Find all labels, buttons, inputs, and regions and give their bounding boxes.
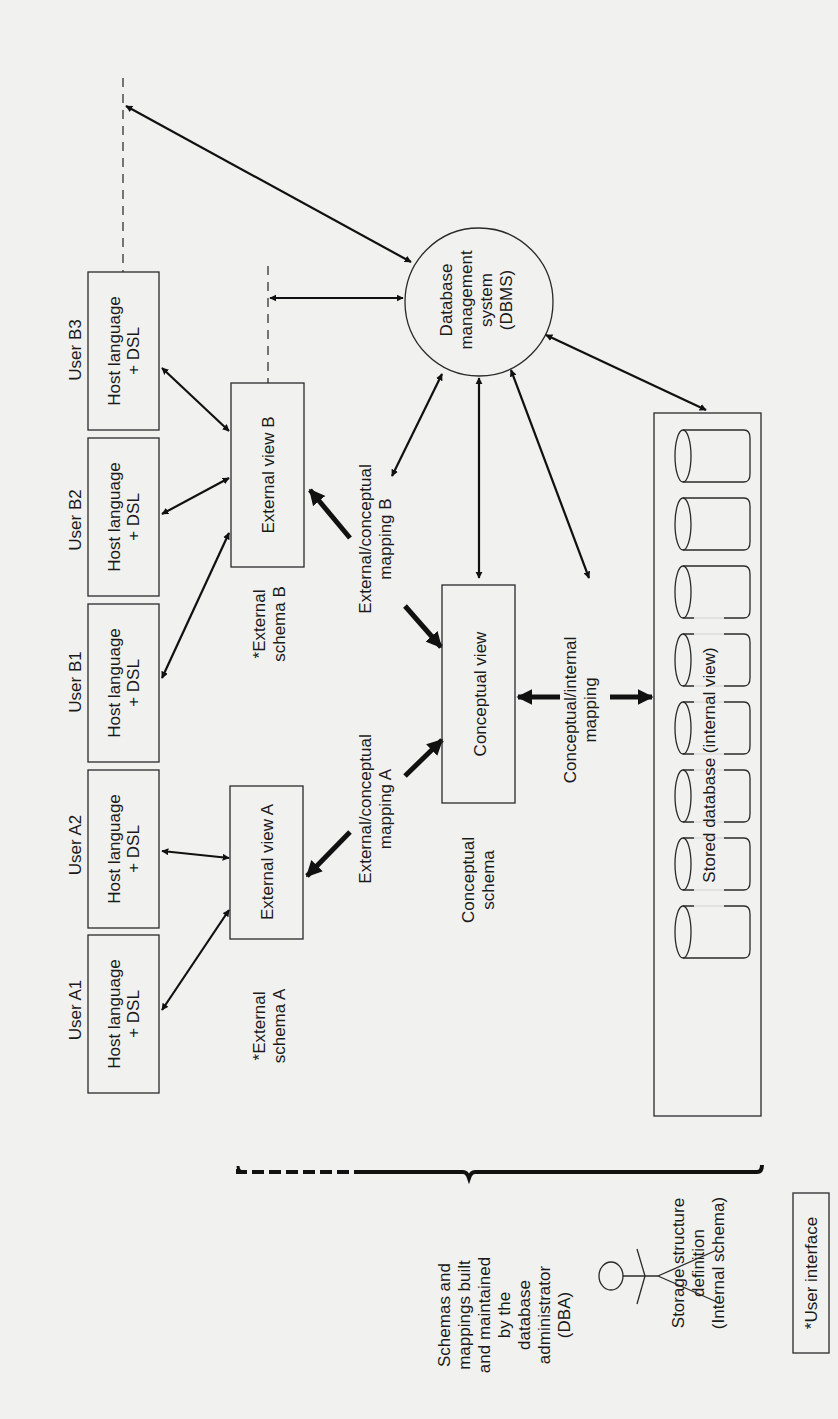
user-label-a2: User A2	[66, 815, 85, 875]
host-language-box-b1: Host language + DSL	[88, 604, 159, 762]
mapping-label-a: External/conceptual mapping A	[356, 734, 395, 883]
mapping-ci-line2: mapping	[581, 677, 600, 742]
dba-line3: and maintained	[475, 1257, 494, 1373]
dsl-label: + DSL	[124, 659, 143, 707]
stored-database-label: Stored database (internal view)	[700, 647, 719, 882]
dbms-line1: Database	[437, 264, 456, 337]
dba-line5: database	[515, 1280, 534, 1350]
storage-def-line3: (Internal schema)	[709, 1197, 728, 1329]
external-schema-b-line1: *External	[250, 590, 269, 659]
mapping-a-line1: External/conceptual	[356, 734, 375, 883]
dba-caption: Schemas and mappings built and maintaine…	[435, 1257, 574, 1373]
external-schema-a-line2: schema A	[270, 988, 289, 1063]
conceptual-schema-caption: Conceptual schema	[459, 837, 498, 923]
external-schema-b-caption: *External schema B	[250, 586, 289, 662]
conceptual-schema-line1: Conceptual	[459, 837, 478, 923]
external-view-b-box: External view B	[231, 383, 304, 567]
stored-database-box: Stored database (internal view)	[654, 413, 761, 1116]
user-label-b3: User B3	[66, 319, 85, 380]
mapping-b-line1: External/conceptual	[356, 464, 375, 613]
cylinder-icon	[675, 498, 750, 550]
host-language-box-b3: Host language + DSL	[88, 272, 159, 430]
dba-line1: Schemas and	[435, 1263, 454, 1367]
host-language-box-a1: Host language + DSL	[88, 935, 159, 1093]
cylinder-icon	[675, 430, 750, 482]
conceptual-view-box: Conceptual view	[442, 585, 515, 803]
external-schema-b-line2: schema B	[270, 586, 289, 662]
dbms-line3: system	[477, 273, 496, 327]
external-view-a-label: External view A	[258, 803, 277, 920]
mapping-label-conceptual-internal: Conceptual/internal mapping	[561, 637, 600, 783]
dsl-label: + DSL	[124, 990, 143, 1038]
user-label-a1: User A1	[66, 980, 85, 1040]
user-view-arrows	[162, 368, 229, 1010]
dba-brace	[238, 1165, 762, 1178]
external-view-a-box: External view A	[230, 786, 303, 939]
user-label-b2: User B2	[66, 489, 85, 550]
external-schema-a-line1: *External	[250, 992, 269, 1061]
storage-def-line1: Storage structure	[669, 1198, 688, 1328]
external-schema-a-caption: *External schema A	[250, 988, 289, 1063]
host-language-label: Host language	[105, 462, 124, 572]
host-language-label: Host language	[105, 959, 124, 1069]
dba-line7: (DBA)	[555, 1292, 574, 1338]
mapping-ci-line1: Conceptual/internal	[561, 637, 580, 783]
mapping-label-b: External/conceptual mapping B	[356, 464, 395, 613]
dba-line6: administrator	[535, 1266, 554, 1365]
external-view-b-label: External view B	[259, 416, 278, 533]
host-language-label: Host language	[105, 296, 124, 406]
mapping-b-line2: mapping B	[376, 498, 395, 579]
conceptual-view-label: Conceptual view	[471, 631, 490, 756]
host-language-box-a2: Host language + DSL	[88, 770, 159, 928]
storage-structure-caption: Storage structure definition (Internal s…	[669, 1197, 728, 1329]
dbms-circle: Database management system (DBMS)	[405, 228, 553, 376]
dbms-line2: management	[457, 250, 476, 350]
dsl-label: + DSL	[124, 825, 143, 873]
host-language-label: Host language	[105, 794, 124, 904]
mapping-a-line2: mapping A	[376, 768, 395, 849]
dsl-label: + DSL	[124, 327, 143, 375]
legend-user-interface: *User interface	[793, 1193, 829, 1353]
diagram-canvas: User A1 User A2 User B1 User B2 User B3 …	[0, 0, 838, 1419]
host-language-box-b2: Host language + DSL	[88, 438, 159, 596]
dba-line4: by the	[495, 1292, 514, 1338]
host-language-label: Host language	[105, 628, 124, 738]
legend-label: *User interface	[802, 1217, 821, 1329]
user-label-b1: User B1	[66, 651, 85, 712]
dba-line2: mappings built	[455, 1260, 474, 1370]
conceptual-schema-line2: schema	[479, 850, 498, 910]
dsl-label: + DSL	[124, 493, 143, 541]
user-labels: User A1 User A2 User B1 User B2 User B3	[66, 319, 85, 1040]
dbms-line4: (DBMS)	[497, 270, 516, 330]
storage-def-line2: definition	[689, 1229, 708, 1297]
